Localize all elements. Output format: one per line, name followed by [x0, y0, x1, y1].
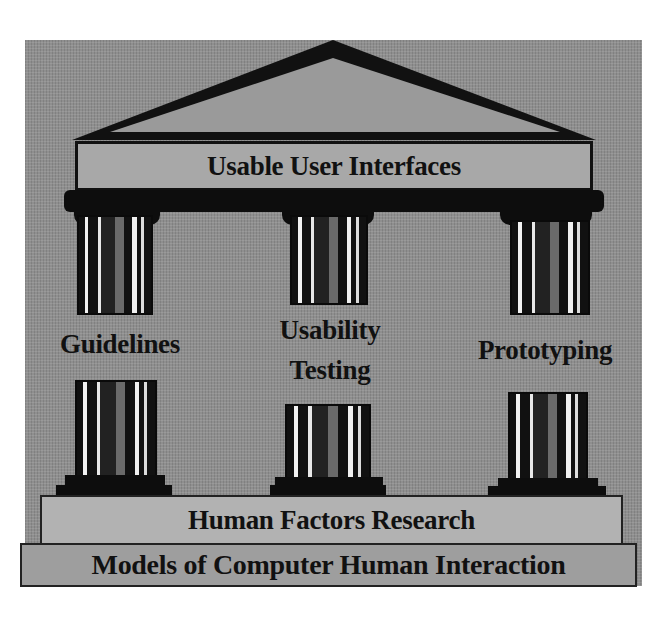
pillar-label: Prototyping: [450, 336, 640, 364]
column-shaft-lower: [75, 380, 157, 480]
column-shaft-upper: [290, 215, 368, 305]
column-shaft-lower: [508, 392, 588, 484]
column-shaft-upper: [77, 215, 153, 315]
pillar-label-line2: Testing: [250, 356, 410, 384]
beam-label: Usable User Interfaces: [207, 152, 461, 180]
entablature-beam: Usable User Interfaces: [75, 141, 593, 191]
column-shaft-upper: [510, 220, 590, 315]
models-label: Models of Computer Human Interaction: [92, 550, 566, 579]
models-layer: Models of Computer Human Interaction: [20, 543, 637, 587]
pillar-label-line1: Usability: [250, 316, 410, 344]
human-factors-layer: Human Factors Research: [40, 495, 623, 545]
temple-diagram: Usable User Interfaces Guidelines Usabil…: [0, 0, 660, 619]
human-factors-label: Human Factors Research: [188, 506, 475, 534]
column-shaft-lower: [285, 404, 371, 482]
pillar-label: Guidelines: [40, 330, 200, 358]
